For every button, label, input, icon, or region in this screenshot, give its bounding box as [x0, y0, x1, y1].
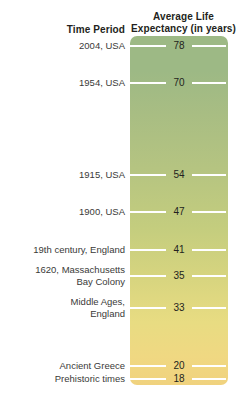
row-value: 70 — [130, 76, 228, 89]
row-value: 35 — [130, 269, 228, 282]
column-header-life-expectancy: Average Life Expectancy (in years) — [126, 11, 241, 35]
row-label: 1954, USA — [0, 77, 125, 89]
row-value: 20 — [130, 359, 228, 372]
row-label: 2004, USA — [0, 40, 125, 52]
row-label: Middle Ages, England — [0, 296, 125, 319]
row-value: 54 — [130, 168, 228, 181]
column-header-life-expectancy-line2: Expectancy (in years) — [126, 23, 241, 35]
row-label: 1915, USA — [0, 169, 125, 181]
life-expectancy-chart: Time Period Average Life Expectancy (in … — [0, 0, 241, 402]
row-label: 19th century, England — [0, 244, 125, 256]
row-value: 78 — [130, 39, 228, 52]
row-value: 47 — [130, 205, 228, 218]
column-header-time-period: Time Period — [10, 24, 125, 36]
row-label: 1900, USA — [0, 206, 125, 218]
row-label: Prehistoric times — [0, 373, 125, 385]
row-value: 18 — [130, 372, 228, 385]
row-value: 41 — [130, 243, 228, 256]
row-label: Ancient Greece — [0, 360, 125, 372]
row-label: 1620, Massachusetts Bay Colony — [0, 264, 125, 287]
column-header-life-expectancy-line1: Average Life — [126, 11, 241, 23]
row-value: 33 — [130, 301, 228, 314]
